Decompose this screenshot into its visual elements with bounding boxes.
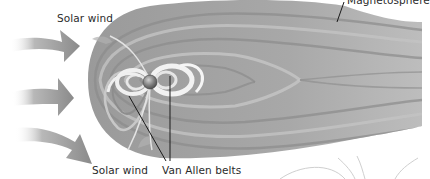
- solar-wind-arrow-middle: [12, 78, 74, 116]
- solar-wind-arrows: [10, 30, 92, 164]
- field-lines: [280, 156, 418, 179]
- solar-wind-arrow-top: [10, 30, 80, 62]
- solar-wind-arrow-bottom: [15, 128, 92, 164]
- label-magnetosphere: Magnetosphere: [347, 0, 430, 6]
- label-solar-wind-top: Solar wind: [57, 12, 113, 24]
- earth: [143, 75, 157, 89]
- label-solar-wind-bottom: Solar wind: [92, 164, 148, 176]
- magnetosphere: [88, 0, 422, 158]
- label-van-allen-belts: Van Allen belts: [162, 164, 241, 176]
